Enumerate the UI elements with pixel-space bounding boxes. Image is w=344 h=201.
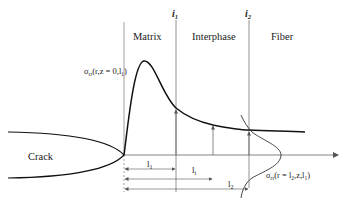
label-l1: l1 (147, 159, 153, 170)
label-peak-stress: σrr(r,z = 0,l1) (84, 66, 127, 77)
label-i2: i2 (245, 8, 252, 20)
label-matrix: Matrix (133, 31, 162, 42)
label-interphase: Interphase (192, 31, 236, 42)
label-li: li (192, 165, 197, 176)
label-fiber: Fiber (271, 31, 294, 42)
crack-shape (8, 132, 124, 178)
label-l2: l2 (228, 179, 234, 190)
label-i1: i1 (172, 8, 178, 20)
stress-curve (124, 61, 305, 155)
crack-stress-diagram: Matrix Interphase Fiber Crack i1 i2 σrr(… (0, 0, 344, 201)
label-fiber-stress: σrr(r = l2,z,l1) (266, 170, 310, 181)
fiber-stress-distribution (241, 115, 281, 198)
label-crack: Crack (28, 151, 54, 162)
